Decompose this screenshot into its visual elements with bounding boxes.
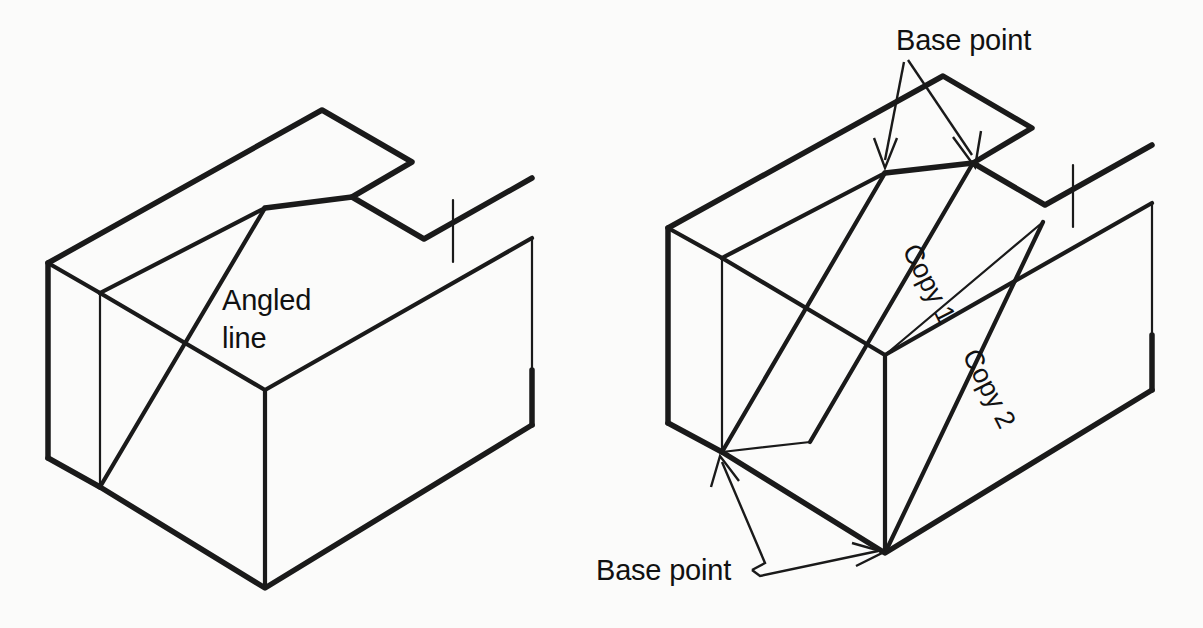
- copy-1-label: Copy 1: [897, 239, 962, 328]
- base-point-label-bottom: Base point: [596, 554, 731, 586]
- right-figure-block-with-copies: Copy 1 Copy 2 Base point Base point: [0, 0, 1203, 628]
- copy-2-label: Copy 2: [957, 344, 1022, 433]
- base-point-top-leaders: [874, 60, 981, 168]
- right-block-vertical-edges: [668, 165, 1152, 553]
- right-block-bottom-edges: [668, 390, 1152, 553]
- base-point-bottom-leaders: [711, 456, 884, 576]
- right-block-angled-lines: [722, 163, 1043, 553]
- right-block-top-face-outline: [668, 76, 1152, 355]
- base-point-label-top: Base point: [896, 24, 1031, 56]
- drawing-canvas: Angled line: [0, 0, 1203, 628]
